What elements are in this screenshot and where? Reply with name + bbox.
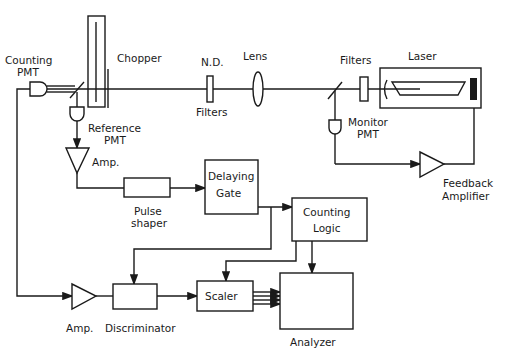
monitor-pmt-icon bbox=[329, 120, 341, 134]
pulse-shaper-label: Pulse bbox=[134, 205, 162, 217]
laser-icon bbox=[380, 68, 481, 108]
amp-label-bottom: Amp. bbox=[66, 322, 93, 334]
pulse-shaper-box bbox=[124, 178, 170, 197]
analyzer-label: Analyzer bbox=[290, 336, 336, 348]
filters-label: Filters bbox=[340, 54, 371, 66]
chopper-icon bbox=[88, 16, 108, 108]
reference-pmt-label: Reference bbox=[88, 122, 141, 134]
chopper-label: Chopper bbox=[117, 52, 162, 64]
amplifier-icon bbox=[66, 148, 89, 173]
reference-pmt-icon bbox=[70, 107, 84, 121]
counting-logic-label-2: Logic bbox=[313, 222, 341, 234]
amplifier-icon-2 bbox=[72, 284, 96, 309]
nd-filter-icon bbox=[207, 76, 213, 102]
data-bus bbox=[253, 292, 280, 304]
reference-pmt-label-2: PMT bbox=[104, 134, 126, 146]
experimental-setup-diagram: Counting PMT Chopper Reference PMT Amp. … bbox=[0, 0, 507, 363]
counting-logic-box bbox=[292, 198, 367, 241]
nd-label: N.D. bbox=[201, 56, 224, 68]
counting-pmt-label: Counting bbox=[5, 54, 52, 66]
scaler-label: Scaler bbox=[205, 290, 238, 302]
discriminator-label: Discriminator bbox=[105, 322, 176, 334]
delaying-gate-label: Delaying bbox=[208, 170, 254, 182]
counting-pmt-label-2: PMT bbox=[17, 66, 39, 78]
counting-logic-label: Counting bbox=[303, 206, 350, 218]
feedback-label: Feedback bbox=[443, 177, 494, 189]
feedback-label-2: Amplifier bbox=[442, 190, 490, 202]
counting-pmt-icon bbox=[30, 82, 47, 96]
nd-filters-label: Filters bbox=[196, 106, 227, 118]
feedback-amplifier-icon bbox=[420, 152, 444, 177]
analyzer-box bbox=[280, 273, 353, 329]
filter-icon bbox=[360, 77, 368, 101]
discriminator-box bbox=[113, 284, 157, 309]
amp-label-top: Amp. bbox=[92, 156, 119, 168]
monitor-pmt-label-2: PMT bbox=[357, 128, 379, 140]
lens-icon bbox=[253, 72, 263, 106]
monitor-pmt-label: Monitor bbox=[348, 116, 389, 128]
pulse-shaper-label-2: shaper bbox=[131, 217, 168, 229]
lens-label: Lens bbox=[243, 50, 267, 62]
delaying-gate-label-2: Gate bbox=[216, 187, 241, 199]
laser-label: Laser bbox=[408, 50, 437, 62]
